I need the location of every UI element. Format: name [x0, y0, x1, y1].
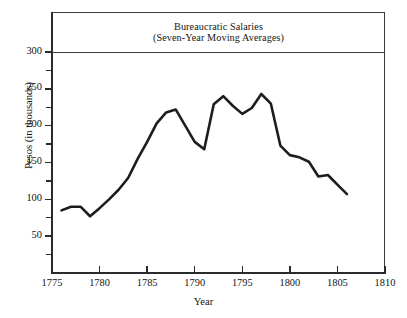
x-axis-label: Year	[0, 296, 407, 307]
y-axis-label: Pesos (in thousands)	[23, 46, 34, 206]
data-series-layer	[0, 0, 407, 318]
chart-figure: Bureaucratic Salaries (Seven-Year Moving…	[0, 0, 407, 318]
series-line-bureaucratic-salaries	[62, 94, 347, 216]
